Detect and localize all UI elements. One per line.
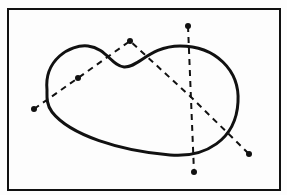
right-end-point (246, 151, 252, 157)
top-point (185, 23, 191, 29)
diagram-svg (0, 0, 287, 195)
apex-point (127, 38, 133, 44)
left-end-point (31, 106, 37, 112)
mid-left-point (75, 75, 81, 81)
bottom-point (191, 169, 197, 175)
kidney-bean-curve (47, 46, 238, 155)
diagram-canvas (0, 0, 287, 195)
